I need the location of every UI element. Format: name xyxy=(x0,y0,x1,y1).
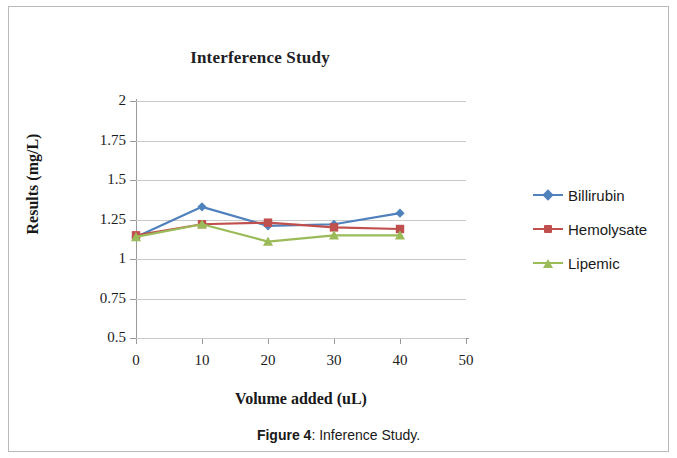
gridline xyxy=(136,338,466,339)
x-axis-tick-label: 0 xyxy=(116,352,156,369)
legend-label: Billirubin xyxy=(563,187,625,204)
legend-item-hemolysate: Hemolysate xyxy=(533,212,673,246)
data-point-billirubin xyxy=(197,202,206,211)
x-axis-tick-label: 50 xyxy=(446,352,486,369)
legend-marker-triangle-icon xyxy=(543,259,553,268)
x-axis-tick xyxy=(466,338,467,344)
y-axis-tick-label: 2 xyxy=(66,92,126,109)
x-axis-title: Volume added (uL) xyxy=(136,390,466,408)
y-axis-tick-label: 1.75 xyxy=(66,132,126,149)
data-point-hemolysate xyxy=(264,218,272,226)
series-layer xyxy=(136,101,466,338)
y-axis-tick-label: 1 xyxy=(66,250,126,267)
legend-item-lipemic: Lipemic xyxy=(533,246,673,280)
page-border-bottom xyxy=(8,451,669,452)
legend-label: Hemolysate xyxy=(563,221,647,238)
x-axis-tick-label: 40 xyxy=(380,352,420,369)
legend-label: Lipemic xyxy=(563,255,620,272)
figure-caption-text: Inference Study. xyxy=(319,427,420,443)
figure-caption-label: Figure 4 xyxy=(257,427,311,443)
legend-swatch-triangle-icon xyxy=(533,256,563,270)
x-axis-tick-label: 20 xyxy=(248,352,288,369)
figure-caption: Figure 4: Inference Study. xyxy=(0,427,677,443)
figure-caption-separator: : xyxy=(311,427,319,443)
data-point-billirubin xyxy=(395,209,404,218)
y-axis-tick-label: 0.5 xyxy=(66,329,126,346)
y-axis-title: Results (mg/L) xyxy=(24,94,42,274)
chart-legend: BillirubinHemolysateLipemic xyxy=(533,178,673,280)
legend-item-billirubin: Billirubin xyxy=(533,178,673,212)
y-axis-tick-label: 0.75 xyxy=(66,290,126,307)
page-border-top xyxy=(8,6,669,7)
y-axis-tick-labels: 0.50.7511.251.51.752 xyxy=(62,101,126,338)
page-border-left xyxy=(8,6,9,452)
legend-swatch-diamond-icon xyxy=(533,188,563,202)
y-axis-tick-label: 1.25 xyxy=(66,211,126,228)
legend-marker-square-icon xyxy=(544,225,552,233)
legend-swatch-square-icon xyxy=(533,222,563,236)
x-axis-tick-label: 30 xyxy=(314,352,354,369)
plot-area xyxy=(136,101,466,338)
x-axis-tick-label: 10 xyxy=(182,352,222,369)
figure-page: Interference Study 0.50.7511.251.51.752 … xyxy=(0,0,677,458)
chart-title: Interference Study xyxy=(0,48,520,68)
legend-marker-diamond-icon xyxy=(542,189,553,200)
y-axis-tick-label: 1.5 xyxy=(66,171,126,188)
